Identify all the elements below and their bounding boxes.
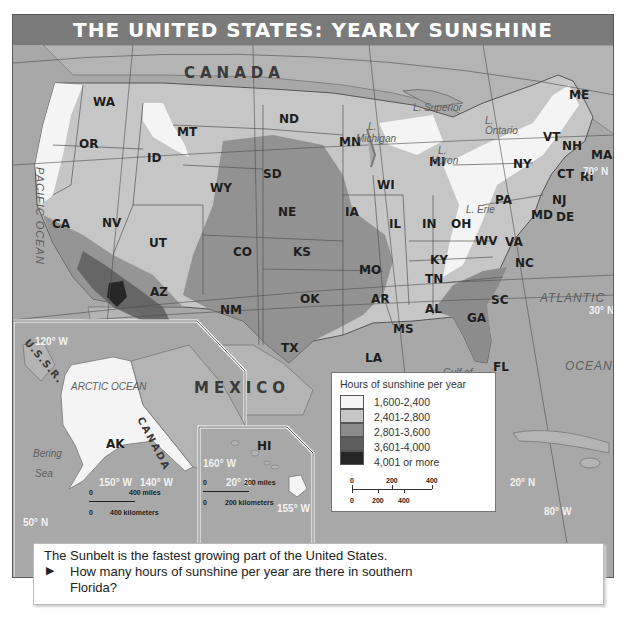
state-label-tx: TX [281, 341, 298, 355]
map-title: THE UNITED STATES: YEARLY SUNSHINE [73, 18, 553, 42]
country-label-canada: CANADA [184, 64, 285, 82]
water-label-l-erie: L. Erie [466, 204, 495, 215]
caption-statement: The Sunbelt is the fastest growing part … [44, 548, 387, 563]
state-label-il: IL [389, 217, 401, 231]
state-label-wi: WI [377, 178, 395, 192]
state-label-ga: GA [467, 311, 486, 325]
legend-label-5: 4,001 or more [374, 456, 439, 468]
water-label-arctic-ocean: ARCTIC OCEAN [71, 381, 147, 392]
water-label-l-superior: L. Superior [413, 102, 462, 113]
state-label-ks: KS [293, 245, 311, 259]
legend-scale-line [352, 489, 432, 490]
legend-swatch-1 [340, 395, 364, 409]
scale-tick [432, 485, 433, 489]
bullet-arrow-icon: ▶ [46, 564, 54, 577]
state-label-al: AL [425, 302, 442, 316]
coord-label-150-w: 150° W [99, 477, 132, 488]
water-label-sea: Sea [35, 468, 53, 479]
state-label-wv: WV [475, 234, 498, 248]
hawaii-scale-line [203, 491, 249, 492]
state-label-ne: NE [278, 205, 296, 219]
state-label-nd: ND [279, 112, 299, 126]
water-label-l-: L. [368, 121, 376, 132]
coord-label-140-w: 140° W [140, 477, 173, 488]
state-label-nv: NV [102, 216, 121, 230]
legend: Hours of sunshine per year 1,600-2,400 2… [331, 372, 496, 512]
alaska-scale-line [89, 501, 135, 502]
state-label-oh: OH [451, 217, 471, 231]
state-label-nc: NC [515, 256, 534, 270]
legend-label-1: 1,600-2,400 [374, 396, 430, 408]
coord-label-50-n: 50° N [23, 517, 48, 528]
map-frame: THE UNITED STATES: YEARLY SUNSHINE [12, 14, 614, 578]
scale-tick [352, 485, 353, 493]
country-label-mexico: MEXICO [194, 379, 290, 397]
state-label-mo: MO [359, 263, 381, 277]
state-label-ca: CA [52, 217, 70, 231]
legend-label-4: 3,601-4,000 [374, 441, 430, 453]
water-label-bering: Bering [33, 448, 62, 459]
legend-swatch-3 [340, 423, 364, 437]
coord-label-20-n: 20° N [510, 477, 535, 488]
coord-label-160-w: 160° W [203, 458, 236, 469]
state-label-co: CO [233, 245, 252, 259]
caption-box: The Sunbelt is the fastest growing part … [33, 543, 604, 605]
legend-swatch-2 [340, 409, 364, 423]
state-label-md: MD [531, 208, 553, 222]
legend-swatch-4 [340, 437, 364, 451]
state-label-sc: SC [491, 293, 508, 307]
coord-label-70-n: 70° N [583, 166, 608, 177]
state-label-or: OR [79, 137, 98, 151]
state-label-ak: AK [106, 437, 125, 451]
scale-tick [404, 489, 405, 493]
scale-tick [392, 485, 393, 489]
state-label-az: AZ [150, 285, 168, 299]
state-label-in: IN [422, 217, 437, 231]
coord-label-30-n: 30° N [589, 305, 614, 316]
water-label-michigan: Michigan [356, 133, 396, 144]
state-label-ok: OK [300, 292, 320, 306]
state-label-nh: NH [562, 139, 582, 153]
state-label-va: VA [505, 235, 523, 249]
state-label-ut: UT [149, 236, 167, 250]
scale-tick [378, 489, 379, 493]
state-label-de: DE [556, 210, 574, 224]
map-title-band: THE UNITED STATES: YEARLY SUNSHINE [13, 15, 613, 46]
ocean-label-atlantic: ATLANTIC [540, 291, 605, 305]
caption-question-line-1: How many hours of sunshine per year are … [70, 564, 413, 579]
us-sunshine-map [13, 45, 614, 578]
legend-swatch-5 [340, 451, 364, 465]
state-label-la: LA [365, 351, 382, 365]
state-label-mt: MT [177, 125, 197, 139]
state-label-ny: NY [513, 157, 532, 171]
water-label-ontario: Ontario [485, 125, 518, 136]
state-label-id: ID [147, 151, 161, 165]
legend-label-2: 2,401-2,800 [374, 411, 430, 423]
state-label-vt: VT [543, 130, 560, 144]
state-label-wy: WY [210, 181, 232, 195]
state-label-ct: CT [557, 167, 574, 181]
legend-label-3: 2,801-3,600 [374, 426, 430, 438]
state-label-ia: IA [345, 205, 359, 219]
state-label-pa: PA [495, 193, 512, 207]
ocean-label-ocean: OCEAN [565, 359, 613, 373]
state-label-ma: MA [591, 148, 612, 162]
state-label-sd: SD [263, 167, 282, 181]
state-label-tn: TN [425, 272, 443, 286]
coord-label-120-w: 120° W [35, 336, 68, 347]
state-label-ky: KY [430, 253, 448, 267]
state-label-wa: WA [93, 95, 115, 109]
state-label-ms: MS [393, 322, 414, 336]
coord-label-155-w: 155° W [277, 503, 310, 514]
state-label-hi: HI [257, 439, 272, 453]
caption-question-line-2: Florida? [70, 580, 117, 595]
pacific-ocean-label: PACIFIC OCEAN [34, 167, 46, 265]
state-label-nj: NJ [552, 193, 567, 207]
coord-label-80-w: 80° W [544, 506, 571, 517]
state-label-me: ME [569, 88, 589, 102]
state-label-ar: AR [371, 292, 390, 306]
water-label-huron: Huron [431, 155, 458, 166]
legend-title: Hours of sunshine per year [340, 378, 466, 390]
state-label-nm: NM [220, 303, 242, 317]
